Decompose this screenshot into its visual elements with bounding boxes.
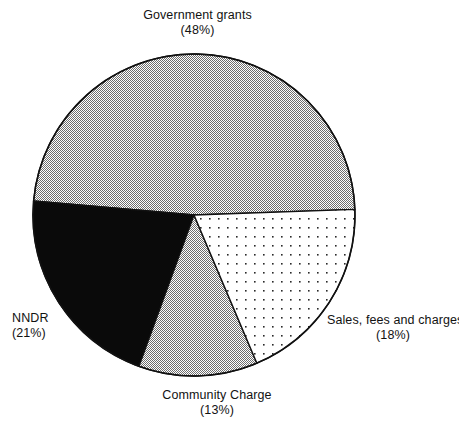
- pie-chart: Government grants (48%) NNDR (21%) Commu…: [0, 0, 459, 427]
- pie-label-nndr-percent: (21%): [12, 326, 90, 341]
- pie-label-government-grants: Government grants (48%): [115, 8, 280, 38]
- pie-label-sales-fees-charges: Sales, fees and charges (18%): [327, 313, 459, 343]
- pie-label-nndr-name: NNDR: [12, 311, 90, 326]
- pie-label-government-grants-name: Government grants: [115, 8, 280, 23]
- pie-slice-government-grants[interactable]: [34, 54, 355, 215]
- pie-label-community-charge: Community Charge (13%): [128, 388, 306, 418]
- pie-label-government-grants-percent: (48%): [115, 23, 280, 38]
- pie-label-community-charge-percent: (13%): [128, 403, 306, 418]
- pie-chart-canvas: [0, 0, 459, 427]
- pie-label-sales-fees-charges-percent: (18%): [327, 328, 459, 343]
- pie-label-sales-fees-charges-name: Sales, fees and charges: [327, 313, 459, 328]
- pie-label-nndr: NNDR (21%): [12, 311, 90, 341]
- pie-label-community-charge-name: Community Charge: [128, 388, 306, 403]
